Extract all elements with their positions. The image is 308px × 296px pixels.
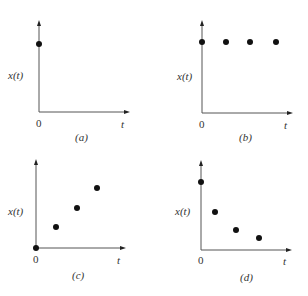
data-point bbox=[212, 209, 218, 215]
data-point bbox=[74, 205, 80, 211]
x-axis-label: t bbox=[117, 254, 121, 266]
y-axis-arrow-icon bbox=[37, 20, 41, 26]
panel-d: x(t) 0 t (d) bbox=[174, 160, 292, 284]
data-point bbox=[36, 41, 42, 47]
data-point bbox=[256, 235, 262, 241]
x-axis-label: t bbox=[283, 255, 287, 267]
data-point bbox=[33, 245, 39, 251]
origin-label: 0 bbox=[198, 254, 204, 266]
data-point bbox=[223, 39, 229, 45]
data-point bbox=[247, 39, 253, 45]
data-point bbox=[94, 185, 100, 191]
origin-label: 0 bbox=[36, 117, 42, 129]
panel-caption: (c) bbox=[72, 269, 85, 282]
panel-b: x(t) 0 t (b) bbox=[176, 20, 293, 144]
y-axis-arrow-icon bbox=[34, 159, 38, 165]
origin-label: 0 bbox=[33, 253, 39, 265]
x-axis-arrow-icon bbox=[120, 246, 126, 250]
y-axis-label: x(t) bbox=[7, 69, 24, 82]
y-axis-arrow-icon bbox=[200, 20, 204, 26]
x-axis-label: t bbox=[121, 118, 125, 130]
panel-caption: (b) bbox=[239, 131, 252, 144]
x-axis-arrow-icon bbox=[286, 248, 292, 252]
data-point bbox=[273, 39, 279, 45]
panel-c: x(t) 0 t (c) bbox=[7, 159, 126, 282]
panel-caption: (d) bbox=[240, 271, 253, 284]
data-point bbox=[198, 179, 204, 185]
data-point bbox=[53, 224, 59, 230]
y-axis-label: x(t) bbox=[174, 205, 191, 218]
figure: x(t) 0 t (a) x(t) 0 t (b) x(t) 0 t (c) bbox=[0, 0, 308, 296]
x-axis-arrow-icon bbox=[124, 110, 130, 114]
x-axis-arrow-icon bbox=[287, 111, 293, 115]
y-axis-label: x(t) bbox=[7, 205, 24, 218]
x-axis-label: t bbox=[284, 119, 288, 131]
origin-label: 0 bbox=[199, 118, 205, 130]
y-axis-arrow-icon bbox=[199, 160, 203, 166]
data-point bbox=[233, 227, 239, 233]
panel-a: x(t) 0 t (a) bbox=[7, 20, 130, 144]
y-axis-label: x(t) bbox=[176, 70, 193, 83]
data-point bbox=[199, 39, 205, 45]
panel-caption: (a) bbox=[75, 131, 88, 144]
